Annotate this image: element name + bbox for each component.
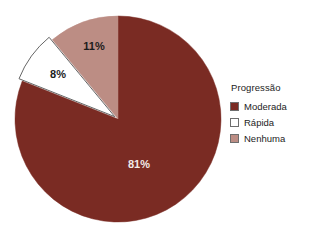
- legend-item-rapida[interactable]: Rápida: [230, 115, 310, 130]
- legend-item-nenhuma[interactable]: Nenhuma: [230, 131, 310, 146]
- legend-label-nenhuma: Nenhuma: [244, 134, 285, 144]
- legend-swatch-moderada: [230, 102, 239, 111]
- pie-chart-figure: 81% 11% 8% Progressão Moderada Rápida Ne…: [0, 0, 310, 233]
- legend-item-moderada[interactable]: Moderada: [230, 99, 310, 114]
- pie-slices: [15, 16, 221, 222]
- legend-swatch-rapida: [230, 118, 239, 127]
- legend-swatch-nenhuma: [230, 134, 239, 143]
- chart-legend: Progressão Moderada Rápida Nenhuma: [230, 82, 310, 147]
- slice-label-nenhuma: 11%: [83, 40, 105, 52]
- pie-chart-canvas: 81% 11% 8%: [0, 0, 230, 233]
- legend-title: Progressão: [231, 82, 310, 93]
- legend-label-moderada: Moderada: [244, 102, 287, 112]
- legend-label-rapida: Rápida: [244, 118, 274, 128]
- slice-label-rapida: 8%: [50, 68, 66, 80]
- slice-label-moderada: 81%: [128, 158, 150, 170]
